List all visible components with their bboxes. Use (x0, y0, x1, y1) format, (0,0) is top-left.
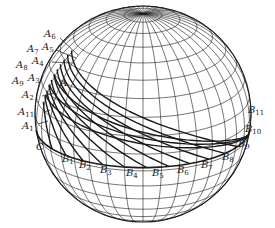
label-B6: B6 (177, 165, 189, 177)
label-B10: B10 (245, 124, 261, 136)
label-A1: A1 (22, 121, 34, 133)
label-A2: A2 (22, 90, 34, 102)
label-A6: A6 (44, 29, 56, 41)
label-B7: B7 (201, 160, 213, 172)
label-B4: B4 (126, 168, 138, 180)
label-B8: B8 (222, 152, 234, 164)
label-B1: B1 (62, 154, 74, 166)
sphere-diagram: A6 A7 A5 A8 A4 A9 A3 A A2 A11 A1 C B1 B2… (0, 0, 275, 228)
label-A8: A8 (16, 60, 28, 72)
label-B9: B9 (238, 139, 250, 151)
label-A: A (60, 78, 67, 88)
label-A9: A9 (12, 76, 24, 88)
label-A5: A5 (42, 42, 54, 54)
label-B3: B3 (100, 165, 112, 177)
label-B2: B2 (79, 160, 91, 172)
sphere-wireframe (0, 0, 275, 228)
label-B11: B11 (248, 105, 264, 117)
label-A4: A4 (32, 56, 44, 68)
label-C: C (36, 142, 44, 152)
label-A3: A3 (28, 73, 40, 85)
label-B5: B5 (152, 168, 164, 180)
label-A11: A11 (18, 107, 34, 119)
